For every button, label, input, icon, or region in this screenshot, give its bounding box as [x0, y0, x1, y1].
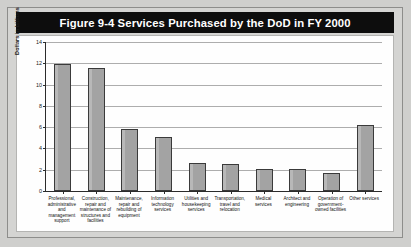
bar-slot: [248, 42, 282, 191]
y-axis-tick-label: 2: [39, 167, 42, 173]
y-axis-tick-label: 6: [39, 124, 42, 130]
x-axis-tick: [130, 191, 131, 194]
category-label-line: relocation: [214, 207, 246, 213]
category-label-line: Utilities and: [180, 196, 212, 202]
bar: [357, 125, 374, 191]
category-label-line: Information: [147, 196, 179, 202]
x-axis-tick: [365, 191, 366, 194]
y-axis-tick-label: 14: [36, 39, 42, 45]
x-axis-tick: [96, 191, 97, 194]
page-title: Figure 9-4 Services Purchased by the DoD…: [59, 17, 350, 29]
x-axis-category-label: Informationtechnologyservices: [146, 196, 180, 232]
bar-slot: [315, 42, 349, 191]
bar-slot: [80, 42, 114, 191]
y-axis-tick-label: 12: [36, 60, 42, 66]
category-label-line: Transportation,: [214, 196, 246, 202]
bar-slot: [113, 42, 147, 191]
bar: [54, 64, 71, 191]
category-label-line: engineering: [281, 202, 313, 208]
category-label-line: rebuilding of: [113, 207, 145, 213]
category-label-line: Professional,: [46, 196, 78, 202]
x-axis-category-label: Utilities andhousekeepingservices: [179, 196, 213, 232]
category-label-line: owned facilities: [315, 207, 347, 213]
bar-slot: [214, 42, 248, 191]
bar: [323, 173, 340, 191]
bar: [222, 164, 239, 191]
category-label-line: maintenance of: [80, 207, 112, 213]
y-axis-label: Dollars in billions: [14, 0, 20, 74]
x-axis-category-label: Professional,administrativeandmanagement…: [45, 196, 79, 232]
x-axis-category-label: Construction,repair andmaintenance ofstr…: [79, 196, 113, 232]
category-label-line: Operation of: [315, 196, 347, 202]
category-label-line: facilities: [80, 218, 112, 224]
bar: [189, 163, 206, 191]
bar: [289, 169, 306, 191]
category-label-line: support: [46, 218, 78, 224]
bar: [121, 129, 138, 191]
x-axis-tick: [231, 191, 232, 194]
y-axis-tick-label: 4: [39, 145, 42, 151]
category-label-line: services: [180, 207, 212, 213]
x-axis-category-label: Medicalservices: [247, 196, 281, 232]
x-axis-tick: [332, 191, 333, 194]
x-axis-category-label: Architect andengineering: [280, 196, 314, 232]
bar-slot: [281, 42, 315, 191]
y-axis-tick: [43, 191, 46, 192]
category-label-line: Maintenance,: [113, 196, 145, 202]
x-axis-category-label: Maintenance,repair andrebuilding ofequip…: [112, 196, 146, 232]
category-label-line: services: [248, 202, 280, 208]
x-axis-category-label: Other services: [347, 196, 381, 232]
figure-container: Figure 9-4 Services Purchased by the DoD…: [0, 0, 411, 247]
x-axis-category-label: Transportation,travel andrelocation: [213, 196, 247, 232]
category-label-line: Architect and: [281, 196, 313, 202]
plot-area: 02468101214: [45, 42, 382, 192]
category-label-line: services: [147, 207, 179, 213]
bars-group: [46, 42, 382, 191]
x-axis-category-label: Operation ofgovernment-owned facilities: [314, 196, 348, 232]
bar-slot: [147, 42, 181, 191]
bar-slot: [46, 42, 80, 191]
y-axis-tick-label: 8: [39, 103, 42, 109]
bar-slot: [180, 42, 214, 191]
y-axis-tick-label: 10: [36, 82, 42, 88]
category-label-line: equipment: [113, 213, 145, 219]
x-axis-category-labels: Professional,administrativeandmanagement…: [45, 196, 381, 232]
x-axis-tick: [197, 191, 198, 194]
bar: [256, 169, 273, 191]
chart-panel: Dollars in billions 02468101214 Professi…: [16, 35, 394, 232]
bar: [155, 137, 172, 191]
x-axis-tick: [264, 191, 265, 194]
category-label-line: Other services: [348, 196, 380, 202]
x-axis-tick: [164, 191, 165, 194]
x-axis-tick: [63, 191, 64, 194]
category-label-line: Construction,: [80, 196, 112, 202]
y-axis-tick-label: 0: [39, 188, 42, 194]
bar: [88, 68, 105, 191]
bar-slot: [348, 42, 382, 191]
x-axis-tick: [298, 191, 299, 194]
figure-title-bar: Figure 9-4 Services Purchased by the DoD…: [16, 12, 394, 33]
